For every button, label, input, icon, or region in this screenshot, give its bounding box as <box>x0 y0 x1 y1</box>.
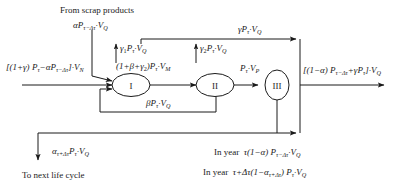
from-scrap-products-text: From scrap products <box>60 6 134 15</box>
to-next-life-cycle-text: To next life cycle <box>22 171 85 180</box>
in-year-2-prefix: In year <box>203 167 228 177</box>
in-year-1-prefix: In year <box>214 147 239 157</box>
label-node2-to-node3: Pτ·VP <box>240 64 259 73</box>
node-label-III: III <box>267 81 287 91</box>
label-in-year-2: In year τ+Δτ(1−ατ+Δτ) Pτ·VQ <box>203 168 306 177</box>
diagram-vector-layer <box>0 0 398 187</box>
label-gamma2-out: γ2Pτ·VQ <box>200 44 227 53</box>
node-label-I: I <box>121 81 141 91</box>
label-scrap-input: αPτ−Δτ·VQ <box>73 21 108 30</box>
node-label-II: II <box>205 81 225 91</box>
label-gamma-top: γPτ·VQ <box>238 25 261 34</box>
label-gamma1-out: γ1Pτ·VQ <box>120 44 147 53</box>
label-node1-to-node2: (1+β+γ2)Pτ·VM <box>116 62 170 71</box>
edge-scrap-input <box>92 30 112 81</box>
label-main-input: [(1+γ) Pτ−αPτ−Δτ]·VN <box>6 63 84 72</box>
label-beta-feedback: βPτ·VQ <box>146 99 170 108</box>
label-next-cycle-flow: ατ+ΔτPτ·VQ <box>52 147 89 156</box>
label-right-output: [(1−α) Pτ−Δτ+γPτ]·VQ <box>303 66 381 75</box>
label-in-year-1: In year τ(1−α) Pτ−Δτ·VQ <box>214 148 300 157</box>
diagram-canvas: I II III From scrap products αPτ−Δτ·VQ [… <box>0 0 398 187</box>
